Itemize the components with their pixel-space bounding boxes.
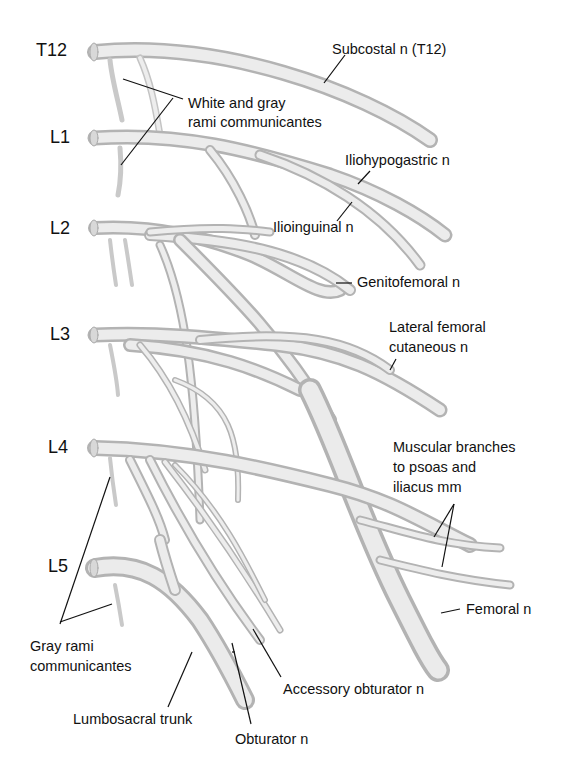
- label-ilioinguinal: Ilioinguinal n: [273, 218, 354, 237]
- label-white-gray-rami-line1: White and gray: [188, 94, 286, 113]
- segment-label-t12: T12: [36, 40, 67, 61]
- label-gray-rami-line2: communicantes: [30, 657, 132, 676]
- label-lumbosacral-trunk: Lumbosacral trunk: [73, 710, 192, 729]
- label-muscular-branches-line1: Muscular branches: [393, 438, 516, 457]
- segment-label-l5: L5: [48, 556, 68, 577]
- label-white-gray-rami-line2: rami communicantes: [188, 113, 322, 132]
- label-accessory-obturator: Accessory obturator n: [283, 680, 424, 699]
- segment-label-l4: L4: [48, 437, 68, 458]
- label-subcostal: Subcostal n (T12): [332, 40, 446, 59]
- segment-label-l2: L2: [50, 218, 70, 239]
- label-muscular-branches-line2: to psoas and: [393, 458, 476, 477]
- nerves: [90, 43, 510, 700]
- label-iliohypogastric: Iliohypogastric n: [345, 151, 450, 170]
- label-obturator: Obturator n: [235, 730, 308, 749]
- segment-label-l1: L1: [50, 127, 70, 148]
- femoral-nerve: [310, 390, 438, 670]
- lumbar-plexus-diagram: T12 L1 L2 L3 L4 L5 Subcostal n (T12) Whi…: [0, 0, 579, 784]
- label-lateral-femoral-cutaneous-line2: cutaneous n: [389, 338, 468, 357]
- label-lateral-femoral-cutaneous-line1: Lateral femoral: [389, 318, 486, 337]
- label-femoral: Femoral n: [466, 600, 531, 619]
- segment-label-l3: L3: [50, 324, 70, 345]
- label-genitofemoral: Genitofemoral n: [357, 273, 460, 292]
- label-gray-rami-line1: Gray rami: [30, 637, 94, 656]
- label-muscular-branches-line3: iliacus mm: [393, 478, 461, 497]
